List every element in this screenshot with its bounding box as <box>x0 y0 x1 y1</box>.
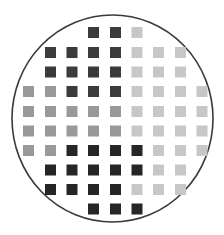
die-cell <box>110 145 121 156</box>
die-cell <box>132 184 143 195</box>
die-cell <box>175 126 186 137</box>
die-cell <box>88 47 99 58</box>
die-cell <box>88 67 99 78</box>
die-cell <box>132 86 143 97</box>
die-cell <box>45 145 56 156</box>
wafer-map <box>0 0 224 235</box>
die-cell <box>110 106 121 117</box>
die-cell <box>67 165 78 176</box>
die-cell <box>197 145 208 156</box>
die-cell <box>110 126 121 137</box>
die-cell <box>23 86 34 97</box>
die-cell <box>23 145 34 156</box>
die-cell <box>67 86 78 97</box>
die-cell <box>45 184 56 195</box>
die-cell <box>88 106 99 117</box>
die-cell <box>110 165 121 176</box>
die-cell <box>132 204 143 215</box>
die-cell <box>88 27 99 38</box>
die-cell <box>110 47 121 58</box>
die-cell <box>110 67 121 78</box>
die-cell <box>153 106 164 117</box>
die-cell <box>197 126 208 137</box>
die-cell <box>67 145 78 156</box>
die-cell <box>132 67 143 78</box>
die-cell <box>110 86 121 97</box>
die-cell <box>175 86 186 97</box>
die-cell <box>153 184 164 195</box>
die-cell <box>153 67 164 78</box>
die-cell <box>23 106 34 117</box>
die-cell <box>110 204 121 215</box>
die-cell <box>45 86 56 97</box>
die-cell <box>132 47 143 58</box>
die-cell <box>67 67 78 78</box>
die-cell <box>153 126 164 137</box>
die-cell <box>153 47 164 58</box>
die-cell <box>67 126 78 137</box>
die-cell <box>67 106 78 117</box>
die-cell <box>132 145 143 156</box>
die-cell <box>132 27 143 38</box>
die-cell <box>88 184 99 195</box>
die-cell <box>45 67 56 78</box>
die-cell <box>88 126 99 137</box>
die-cell <box>197 106 208 117</box>
die-cell <box>132 106 143 117</box>
die-cell <box>110 27 121 38</box>
die-cell <box>45 165 56 176</box>
die-cell <box>197 86 208 97</box>
die-cell <box>67 184 78 195</box>
die-cell <box>175 145 186 156</box>
die-cell <box>45 106 56 117</box>
die-cell <box>88 165 99 176</box>
die-cell <box>45 47 56 58</box>
die-cell <box>175 106 186 117</box>
die-cell <box>153 165 164 176</box>
die-cell <box>132 126 143 137</box>
die-cell <box>110 184 121 195</box>
die-cell <box>175 165 186 176</box>
die-cell <box>153 86 164 97</box>
die-cell <box>132 165 143 176</box>
die-cell <box>67 47 78 58</box>
die-grid <box>23 27 208 215</box>
die-cell <box>175 67 186 78</box>
die-cell <box>88 145 99 156</box>
die-cell <box>175 184 186 195</box>
die-cell <box>153 145 164 156</box>
die-cell <box>45 126 56 137</box>
die-cell <box>88 204 99 215</box>
die-cell <box>175 47 186 58</box>
die-cell <box>88 86 99 97</box>
die-cell <box>23 126 34 137</box>
